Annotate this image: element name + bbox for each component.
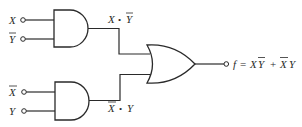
output-pin-f (224, 62, 229, 67)
and-gate-bottom (55, 82, 89, 120)
input-pin-xbar (22, 90, 27, 95)
input-label-y: Y (9, 105, 17, 117)
wire-and-bottom-to-or (89, 75, 150, 101)
input-label-x: X (8, 14, 17, 26)
output-f: f (233, 58, 238, 70)
label-top-dot: • (118, 15, 121, 25)
output-term2-y: Y (289, 58, 297, 70)
label-top-x: X (107, 13, 116, 25)
input-label-xbar: X (8, 86, 17, 98)
input-pin-y (22, 109, 27, 114)
label-bottom-y: Y (127, 102, 135, 114)
label-x-and-ybar: X • Y (107, 13, 134, 25)
input-xbar-bottom: X (8, 86, 55, 98)
output-plus: + (270, 58, 276, 70)
label-bottom-xbar: X (107, 102, 116, 114)
input-label-ybar: Y (9, 33, 17, 45)
output-equals: = (240, 58, 246, 70)
output-term1-ybar: Y (258, 58, 266, 70)
input-x-top: X (8, 14, 54, 26)
output-term2-xbar: X (279, 58, 288, 70)
output-expression: f = X Y + X Y (233, 58, 297, 71)
label-bottom-dot: • (119, 104, 122, 114)
and-gate-top (54, 10, 88, 47)
logic-circuit-diagram: X Y X • Y X Y (0, 0, 302, 127)
input-y-bottom: Y (9, 105, 55, 117)
label-xbar-and-y: X • Y (107, 102, 135, 114)
input-pin-ybar (21, 37, 26, 42)
wire-and-top-to-or (88, 29, 150, 55)
input-pin-x (21, 18, 26, 23)
output-term1-x: X (249, 58, 258, 70)
or-gate (147, 45, 195, 83)
input-ybar-top: Y (9, 33, 54, 45)
label-top-ybar: Y (126, 13, 134, 25)
